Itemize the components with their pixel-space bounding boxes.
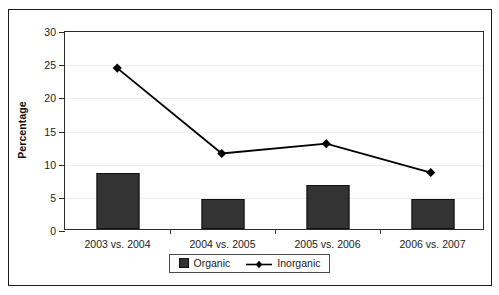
y-axis-tick-label: 5: [16, 192, 56, 204]
bar-organic: [201, 199, 244, 230]
x-axis-category-label: 2005 vs. 2006: [295, 238, 361, 250]
x-axis-tick: [275, 229, 276, 234]
legend-label-organic: Organic: [194, 257, 231, 269]
legend-item-organic: Organic: [179, 257, 231, 269]
y-axis-tick-label: 30: [16, 26, 56, 38]
y-axis-tick-label: 10: [16, 159, 56, 171]
x-axis-tick: [380, 229, 381, 234]
x-axis-category-label: 2003 vs. 2004: [85, 238, 151, 250]
bar-organic: [306, 185, 349, 229]
bar-organic: [96, 173, 139, 229]
y-axis-tick-label: 15: [16, 126, 56, 138]
x-axis-category-slot: 2003 vs. 2004: [65, 32, 170, 229]
x-axis-category-slot: 2006 vs. 2007: [380, 32, 485, 229]
legend-label-inorganic: Inorganic: [277, 257, 320, 269]
diamond-line-marker-icon: [246, 259, 272, 268]
x-axis-tick: [170, 229, 171, 234]
y-axis-tick-label: 25: [16, 59, 56, 71]
y-axis-tick-label: 0: [16, 225, 56, 237]
x-axis-category-label: 2004 vs. 2005: [190, 238, 256, 250]
chart-figure: Percentage 051015202530 2003 vs. 2004200…: [0, 0, 499, 295]
x-axis-category-label: 2006 vs. 2007: [400, 238, 466, 250]
y-axis-tick-label: 20: [16, 92, 56, 104]
legend-item-inorganic: Inorganic: [246, 257, 320, 269]
x-axis-category-slot: 2005 vs. 2006: [275, 32, 380, 229]
y-axis-tick: [59, 231, 65, 232]
square-marker-icon: [179, 258, 189, 268]
chart-legend: Organic Inorganic: [169, 254, 331, 273]
plot-area: 051015202530 2003 vs. 20042004 vs. 20052…: [64, 31, 484, 230]
bar-organic: [411, 199, 454, 230]
figure-frame: Percentage 051015202530 2003 vs. 2004200…: [8, 9, 492, 286]
x-axis-category-slot: 2004 vs. 2005: [170, 32, 275, 229]
